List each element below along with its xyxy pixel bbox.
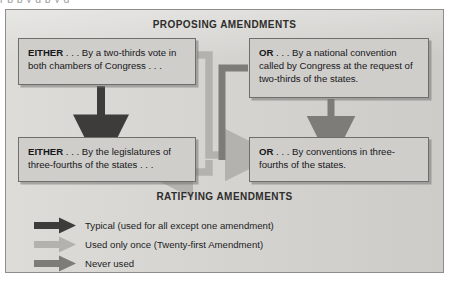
- heading-ratifying-amendments: RATIFYING AMENDMENTS: [6, 191, 443, 202]
- box-propose-or: OR . . . By a national convention called…: [249, 38, 429, 98]
- legend-item-typical: Typical (used for all except one amendme…: [32, 216, 392, 235]
- box-ratify-either: EITHER . . . By the legislatures of thre…: [18, 137, 196, 182]
- diagram-canvas: r p p y g p y g PROPOSING AMENDMENTS: [0, 0, 451, 287]
- box-propose-either: EITHER . . . By a two-thirds vote in bot…: [18, 38, 196, 85]
- arrow-swatch-never-used-icon: [32, 254, 78, 273]
- arrow-swatch-typical-icon: [32, 216, 78, 235]
- legend-item-used-once: Used only once (Twenty-first Amendment): [32, 235, 392, 254]
- legend-label-never-used: Never used: [85, 258, 134, 270]
- arrow-swatch-used-once-icon: [32, 235, 78, 254]
- arrow-never-used-propose-or-to-ratify-either: [222, 68, 248, 160]
- box-ratify-either-lead: EITHER: [28, 146, 63, 157]
- box-propose-either-lead: EITHER: [28, 47, 63, 58]
- legend: Typical (used for all except one amendme…: [32, 216, 392, 273]
- box-propose-or-text: . . . By a national convention called by…: [259, 47, 413, 84]
- legend-label-typical: Typical (used for all except one amendme…: [85, 220, 274, 232]
- legend-label-used-once: Used only once (Twenty-first Amendment): [85, 239, 263, 251]
- box-ratify-or-lead: OR: [259, 146, 273, 157]
- box-ratify-or: OR . . . By conventions in three-fourths…: [249, 137, 429, 182]
- cut-off-text-above: r p p y g p y g: [0, 0, 451, 3]
- box-ratify-or-text: . . . By conventions in three-fourths of…: [259, 146, 395, 170]
- box-propose-or-lead: OR: [259, 47, 273, 58]
- legend-item-never-used: Never used: [32, 254, 392, 273]
- amendment-process-panel: PROPOSING AMENDMENTS: [5, 9, 444, 273]
